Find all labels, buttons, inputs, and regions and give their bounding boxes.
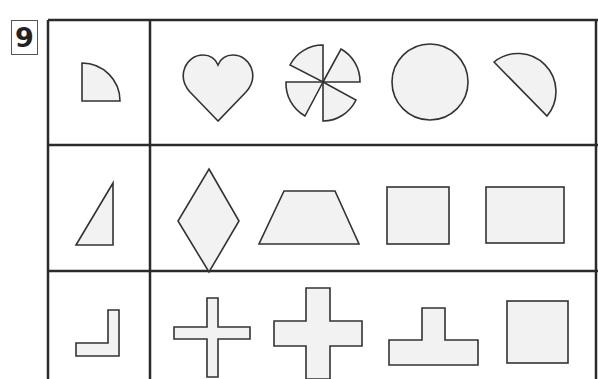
reference-quarter-circle[interactable] — [82, 63, 120, 101]
option-pinwheel[interactable] — [286, 45, 360, 121]
option-rhombus[interactable] — [178, 169, 239, 272]
option-rectangle[interactable] — [486, 187, 564, 243]
option-heart[interactable] — [183, 55, 252, 121]
option-square-row3[interactable] — [507, 301, 568, 363]
option-thin-plus-cross[interactable] — [174, 298, 250, 377]
option-circle[interactable] — [392, 44, 468, 120]
option-semicircle[interactable] — [494, 54, 556, 116]
option-square[interactable] — [387, 187, 449, 244]
option-trapezoid[interactable] — [259, 191, 359, 244]
option-t-shape[interactable] — [389, 308, 478, 365]
reference-right-triangle[interactable] — [76, 183, 113, 245]
reference-l-shape[interactable] — [76, 310, 119, 356]
option-thick-plus-cross[interactable] — [274, 288, 362, 379]
shape-grid — [0, 0, 598, 379]
